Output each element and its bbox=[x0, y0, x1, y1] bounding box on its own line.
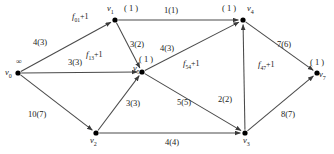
edge-label-v0-v1: 4(3) bbox=[33, 38, 47, 47]
node-v2 bbox=[93, 130, 98, 135]
node-layer bbox=[15, 17, 319, 135]
node-label-v7: v7 bbox=[319, 70, 326, 81]
node-v5 bbox=[139, 69, 144, 74]
node-potential-v0: ∞ bbox=[16, 58, 22, 66]
residual-label-f54: f54+1 bbox=[183, 59, 200, 70]
edge-label-v3-v7: 8(7) bbox=[281, 110, 295, 119]
network-flow-diagram: 4(3)3(3)10(7)1(1)3(2)4(3)3(3)5(5)4(4)2(2… bbox=[0, 0, 334, 154]
edge-label-v4-v7: 7(6) bbox=[277, 40, 291, 49]
edge-label-v1-v4: 1(1) bbox=[164, 6, 178, 15]
edge-label-v2-v3: 4(4) bbox=[165, 138, 179, 147]
node-v1 bbox=[112, 17, 117, 22]
residual-label-f01: f01+1 bbox=[72, 12, 89, 23]
node-v0 bbox=[15, 70, 20, 75]
node-label-v3: v3 bbox=[243, 136, 250, 147]
edge-v3-v7 bbox=[247, 76, 313, 131]
edge-v0-v5 bbox=[21, 72, 137, 73]
node-label-v5: v5 bbox=[133, 64, 140, 75]
node-label-v2: v2 bbox=[90, 136, 97, 147]
edge-label-v3-v4: 2(2) bbox=[218, 95, 232, 104]
edge-label-v0-v2: 10(7) bbox=[28, 110, 46, 119]
node-label-v0: v0 bbox=[5, 68, 12, 79]
graph-canvas bbox=[0, 0, 334, 154]
edge-label-v5-v4: 4(3) bbox=[160, 44, 174, 53]
edge-v3-v4 bbox=[243, 25, 245, 130]
node-potential-v5: ( 1 ) bbox=[139, 55, 153, 64]
node-potential-v1: ( 1 ) bbox=[124, 4, 138, 13]
node-potential-v7: ( 1 ) bbox=[310, 58, 324, 67]
edge-v0-v2 bbox=[21, 75, 93, 130]
edge-layer bbox=[21, 20, 314, 133]
edge-label-v0-v5: 3(3) bbox=[68, 58, 82, 67]
node-label-v4: v4 bbox=[247, 4, 254, 15]
node-v4 bbox=[240, 17, 245, 22]
edge-label-v1-v5: 3(2) bbox=[130, 40, 144, 49]
residual-label-f13: f13+1 bbox=[86, 50, 103, 61]
node-potential-v4: ( 1 ) bbox=[222, 4, 236, 13]
residual-label-f47: f47+1 bbox=[258, 60, 275, 71]
edge-label-v2-v5: 3(3) bbox=[126, 99, 140, 108]
edge-label-v5-v3: 5(5) bbox=[177, 98, 191, 107]
node-label-v1: v1 bbox=[107, 4, 114, 15]
